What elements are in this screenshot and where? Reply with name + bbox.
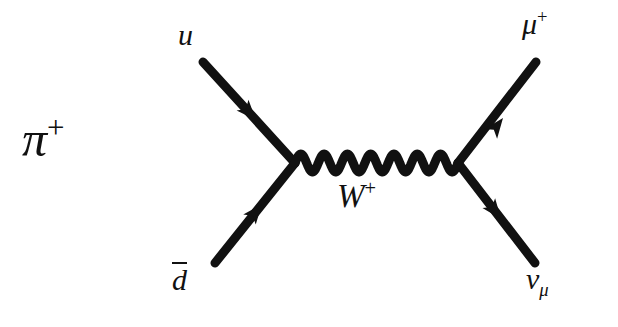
- label-u-quark-base: u: [178, 18, 193, 51]
- neutrino-line: [458, 163, 535, 263]
- label-muon-neutrino-subscript: μ: [539, 279, 548, 300]
- u-quark-line: [203, 62, 295, 163]
- label-u-quark: u: [178, 20, 193, 50]
- label-antimuon-superscript: +: [537, 6, 548, 27]
- label-w-boson: W+: [337, 178, 376, 213]
- label-muon-neutrino: νμ: [526, 264, 549, 300]
- label-dbar-quark: d: [172, 262, 187, 295]
- feynman-diagram: π+ u d W+ μ+ νμ: [0, 0, 618, 327]
- label-dbar-quark-base: d: [172, 262, 187, 295]
- label-pion: π+: [22, 112, 65, 164]
- label-w-boson-base: W: [337, 178, 365, 214]
- label-pion-base: π: [22, 111, 47, 167]
- dbar-quark-line: [215, 163, 295, 263]
- label-antimuon-base: μ: [522, 7, 537, 40]
- antimuon-line: [458, 62, 536, 163]
- antimuon-stroke: [458, 62, 536, 163]
- w-boson-propagator: [295, 154, 458, 172]
- label-muon-neutrino-base: ν: [526, 262, 539, 295]
- label-antimuon: μ+: [522, 8, 548, 39]
- label-w-boson-superscript: +: [365, 177, 377, 199]
- label-pion-superscript: +: [47, 110, 64, 145]
